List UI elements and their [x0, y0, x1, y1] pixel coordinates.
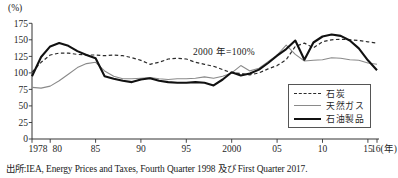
legend-box: 石炭 天然ガス 石油製品: [288, 84, 371, 128]
legend-label-oil-products: 石油製品: [326, 112, 364, 125]
source-note: 出所:IEA, Energy Prices and Taxes, Fourth …: [6, 161, 307, 175]
x-tick-label-1985: 85: [91, 144, 101, 154]
x-tick-label-2005: 05: [272, 144, 282, 154]
y-tick-label-0: 0: [23, 134, 28, 144]
natural-gas-line-swatch: [294, 105, 321, 106]
x-tick-label-1978: 1978: [29, 144, 48, 154]
legend-item-natural-gas: 天然ガス: [294, 100, 370, 112]
y-axis-unit-label: (%): [8, 3, 22, 13]
x-tick-label-1980: 80: [52, 144, 62, 154]
series-line-oil-products: [32, 35, 377, 86]
x-tick-label-1995: 95: [182, 144, 192, 154]
x-tick-label-1990: 90: [136, 144, 146, 154]
y-tick-label-25: 25: [19, 118, 29, 128]
oil-products-line-swatch: [294, 118, 321, 120]
legend-label-natural-gas: 天然ガス: [326, 99, 364, 112]
legend-item-oil-products: 石油製品: [294, 113, 370, 125]
energy-price-index-chart: 0255075100125150175197880859095200005101…: [0, 0, 398, 178]
y-tick-label-125: 125: [14, 52, 29, 62]
x-tick-label-2016: 16(年): [371, 143, 397, 155]
y-tick-label-175: 175: [14, 19, 29, 29]
x-tick-label-2000: 2000: [222, 144, 241, 154]
y-tick-label-100: 100: [14, 68, 29, 78]
base-year-annotation: 2000 年=100%: [178, 44, 270, 58]
x-tick-label-2010: 10: [318, 144, 328, 154]
legend-item-coal: 石炭: [294, 87, 370, 99]
y-tick-label-150: 150: [14, 35, 29, 45]
legend-label-coal: 石炭: [326, 87, 345, 100]
y-tick-label-50: 50: [19, 101, 29, 111]
coal-dashed-line-swatch: [294, 93, 321, 94]
y-tick-label-75: 75: [19, 85, 29, 95]
